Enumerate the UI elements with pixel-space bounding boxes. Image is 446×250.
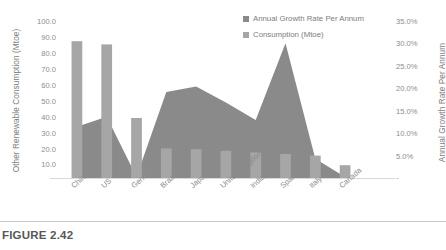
x-axis-label-italy: Italy [308, 175, 324, 190]
y-axis-right-tick: 25.0% [396, 63, 436, 71]
y-axis-right-tick: 30.0% [396, 40, 436, 48]
y-axis-left-tick: 60.0 [22, 82, 56, 90]
y-axis-right-tick: 35.0% [396, 18, 436, 26]
figure-container: Other Renewable Consumption (Mtoe) 100.0… [0, 0, 446, 250]
y-axis-right-title: Annual Growth Rate Per Annum [438, 23, 446, 183]
area-fill [77, 43, 345, 178]
y-axis-left-title: Other Renewable Consumption (Mtoe) [12, 21, 21, 181]
y-axis-left-tick: 90.0 [22, 34, 56, 42]
y-axis-left-tick: 70.0 [22, 66, 56, 74]
plot-svg [62, 18, 360, 178]
x-axis-label-us: US [100, 177, 113, 190]
y-axis-left-tick: 30.0 [22, 130, 56, 138]
y-axis-right-tick: 10.0% [396, 130, 436, 138]
bar-germany [131, 118, 142, 178]
y-axis-left-tick: 10.0 [22, 161, 56, 169]
bar-china [72, 41, 83, 178]
y-axis-right-tick: 20.0% [396, 85, 436, 93]
figure-caption: FIGURE 2.42 [2, 229, 73, 241]
y-axis-left-tick: 20.0 [22, 146, 56, 154]
chart-canvas: Other Renewable Consumption (Mtoe) 100.0… [0, 0, 446, 215]
y-axis-right-tick: 5.0% [396, 153, 436, 161]
y-axis-left-tick: 40.0 [22, 114, 56, 122]
x-axis-category-labels: ChinaUSGermanyBrazilJapanUnited KingdomI… [0, 178, 446, 220]
series-annual-growth-rate-area [77, 43, 345, 178]
y-axis-left-tick: 80.0 [22, 50, 56, 58]
bar-us [101, 44, 112, 178]
plot-area [62, 18, 360, 178]
y-axis-right-tick: 15.0% [396, 108, 436, 116]
caption-divider [0, 221, 446, 222]
y-axis-left-tick: 100.0 [22, 18, 56, 26]
y-axis-left-tick: 50.0 [22, 98, 56, 106]
